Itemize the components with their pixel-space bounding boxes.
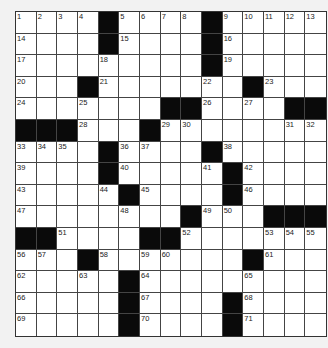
grid-cell[interactable] bbox=[119, 98, 140, 120]
grid-cell[interactable] bbox=[305, 77, 326, 99]
grid-cell[interactable] bbox=[78, 293, 99, 315]
grid-cell[interactable] bbox=[285, 142, 306, 164]
grid-cell[interactable]: 13 bbox=[305, 12, 326, 34]
grid-cell[interactable] bbox=[181, 185, 202, 207]
grid-cell[interactable] bbox=[264, 293, 285, 315]
grid-cell[interactable]: 50 bbox=[223, 206, 244, 228]
grid-cell[interactable] bbox=[202, 185, 223, 207]
grid-cell[interactable]: 54 bbox=[285, 228, 306, 250]
grid-cell[interactable] bbox=[264, 55, 285, 77]
grid-cell[interactable] bbox=[140, 206, 161, 228]
grid-cell[interactable] bbox=[264, 314, 285, 336]
grid-cell[interactable] bbox=[202, 271, 223, 293]
grid-cell[interactable] bbox=[223, 250, 244, 272]
grid-cell[interactable]: 17 bbox=[16, 55, 37, 77]
grid-cell[interactable] bbox=[264, 185, 285, 207]
grid-cell[interactable] bbox=[202, 228, 223, 250]
grid-cell[interactable] bbox=[305, 34, 326, 56]
grid-cell[interactable]: 70 bbox=[140, 314, 161, 336]
grid-cell[interactable] bbox=[57, 55, 78, 77]
grid-cell[interactable] bbox=[99, 98, 120, 120]
grid-cell[interactable] bbox=[223, 120, 244, 142]
grid-cell[interactable] bbox=[161, 206, 182, 228]
grid-cell[interactable]: 5 bbox=[119, 12, 140, 34]
grid-cell[interactable]: 57 bbox=[37, 250, 58, 272]
grid-cell[interactable]: 22 bbox=[202, 77, 223, 99]
grid-cell[interactable]: 11 bbox=[264, 12, 285, 34]
grid-cell[interactable] bbox=[78, 34, 99, 56]
grid-cell[interactable] bbox=[285, 77, 306, 99]
grid-cell[interactable] bbox=[223, 77, 244, 99]
grid-cell[interactable] bbox=[57, 163, 78, 185]
grid-cell[interactable] bbox=[181, 271, 202, 293]
grid-cell[interactable]: 44 bbox=[99, 185, 120, 207]
grid-cell[interactable] bbox=[285, 34, 306, 56]
grid-cell[interactable]: 39 bbox=[16, 163, 37, 185]
grid-cell[interactable] bbox=[223, 98, 244, 120]
grid-cell[interactable] bbox=[161, 34, 182, 56]
grid-cell[interactable]: 29 bbox=[161, 120, 182, 142]
grid-cell[interactable] bbox=[181, 77, 202, 99]
grid-cell[interactable] bbox=[305, 163, 326, 185]
grid-cell[interactable]: 3 bbox=[57, 12, 78, 34]
grid-cell[interactable] bbox=[264, 142, 285, 164]
grid-cell[interactable] bbox=[37, 206, 58, 228]
grid-cell[interactable] bbox=[37, 271, 58, 293]
grid-cell[interactable] bbox=[181, 163, 202, 185]
grid-cell[interactable]: 20 bbox=[16, 77, 37, 99]
grid-cell[interactable]: 41 bbox=[202, 163, 223, 185]
grid-cell[interactable] bbox=[181, 34, 202, 56]
grid-cell[interactable] bbox=[285, 250, 306, 272]
grid-cell[interactable] bbox=[57, 206, 78, 228]
grid-cell[interactable]: 48 bbox=[119, 206, 140, 228]
grid-cell[interactable] bbox=[202, 314, 223, 336]
grid-cell[interactable] bbox=[202, 293, 223, 315]
grid-cell[interactable] bbox=[140, 34, 161, 56]
grid-cell[interactable] bbox=[119, 228, 140, 250]
grid-cell[interactable] bbox=[140, 77, 161, 99]
grid-cell[interactable]: 16 bbox=[223, 34, 244, 56]
grid-cell[interactable]: 63 bbox=[78, 271, 99, 293]
grid-cell[interactable]: 25 bbox=[78, 98, 99, 120]
grid-cell[interactable]: 31 bbox=[285, 120, 306, 142]
grid-cell[interactable] bbox=[202, 120, 223, 142]
grid-cell[interactable] bbox=[223, 228, 244, 250]
grid-cell[interactable] bbox=[305, 250, 326, 272]
grid-cell[interactable] bbox=[161, 142, 182, 164]
grid-cell[interactable] bbox=[264, 34, 285, 56]
grid-cell[interactable]: 67 bbox=[140, 293, 161, 315]
grid-cell[interactable] bbox=[78, 55, 99, 77]
grid-cell[interactable]: 43 bbox=[16, 185, 37, 207]
grid-cell[interactable] bbox=[181, 314, 202, 336]
grid-cell[interactable] bbox=[285, 293, 306, 315]
grid-cell[interactable] bbox=[57, 77, 78, 99]
grid-cell[interactable] bbox=[37, 34, 58, 56]
grid-cell[interactable] bbox=[119, 120, 140, 142]
grid-cell[interactable]: 46 bbox=[243, 185, 264, 207]
grid-cell[interactable]: 36 bbox=[119, 142, 140, 164]
grid-cell[interactable] bbox=[243, 228, 264, 250]
grid-cell[interactable]: 6 bbox=[140, 12, 161, 34]
grid-cell[interactable] bbox=[119, 55, 140, 77]
grid-cell[interactable] bbox=[119, 250, 140, 272]
grid-cell[interactable] bbox=[161, 293, 182, 315]
grid-cell[interactable]: 45 bbox=[140, 185, 161, 207]
grid-cell[interactable]: 19 bbox=[223, 55, 244, 77]
grid-cell[interactable]: 7 bbox=[161, 12, 182, 34]
grid-cell[interactable]: 64 bbox=[140, 271, 161, 293]
grid-cell[interactable] bbox=[99, 293, 120, 315]
grid-cell[interactable]: 35 bbox=[57, 142, 78, 164]
grid-cell[interactable] bbox=[181, 293, 202, 315]
grid-cell[interactable] bbox=[285, 271, 306, 293]
grid-cell[interactable] bbox=[305, 142, 326, 164]
grid-cell[interactable]: 69 bbox=[16, 314, 37, 336]
grid-cell[interactable]: 15 bbox=[119, 34, 140, 56]
grid-cell[interactable] bbox=[161, 77, 182, 99]
grid-cell[interactable]: 4 bbox=[78, 12, 99, 34]
grid-cell[interactable]: 2 bbox=[37, 12, 58, 34]
grid-cell[interactable]: 34 bbox=[37, 142, 58, 164]
grid-cell[interactable] bbox=[57, 185, 78, 207]
grid-cell[interactable] bbox=[37, 185, 58, 207]
grid-cell[interactable] bbox=[161, 314, 182, 336]
grid-cell[interactable]: 62 bbox=[16, 271, 37, 293]
